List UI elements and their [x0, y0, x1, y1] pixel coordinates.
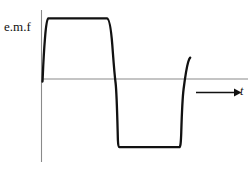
y-axis-label: e.m.f: [4, 20, 31, 34]
x-axis-label: t: [240, 85, 243, 98]
emf-waveform-figure: e.m.f t: [0, 0, 252, 170]
emf-waveform-curve: [43, 18, 191, 147]
time-axis-arrow: [196, 89, 242, 97]
waveform-svg-canvas: [0, 0, 252, 170]
